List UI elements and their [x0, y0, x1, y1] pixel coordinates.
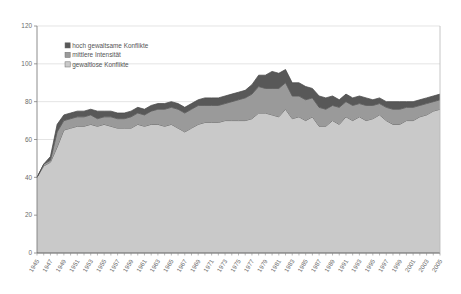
legend-swatch [65, 43, 70, 48]
y-axis-tick-label: 60 [25, 136, 33, 143]
y-axis-tick-label: 120 [21, 22, 32, 29]
legend-item: gewaltlose Konflikte [65, 61, 129, 69]
chart-container: 020406080100120 194519471949195119531955… [0, 0, 461, 294]
legend-item: hoch gewaltsame Konflikte [65, 42, 149, 50]
legend-swatch [65, 52, 70, 57]
legend-label: mittlere Intensität [72, 51, 121, 58]
y-axis-tick-label: 20 [25, 211, 33, 218]
stacked-area-chart: 020406080100120 194519471949195119531955… [0, 0, 461, 294]
legend-item: mittlere Intensität [65, 51, 121, 58]
area-series [37, 109, 440, 253]
legend-label: hoch gewaltsame Konflikte [72, 42, 148, 50]
legend-swatch [65, 62, 70, 67]
y-axis-tick-label: 100 [21, 60, 32, 67]
legend-label: gewaltlose Konflikte [72, 61, 129, 69]
y-axis-tick-label: 0 [28, 249, 32, 256]
y-axis-tick-label: 40 [25, 174, 33, 181]
y-axis-tick-label: 80 [25, 98, 33, 105]
